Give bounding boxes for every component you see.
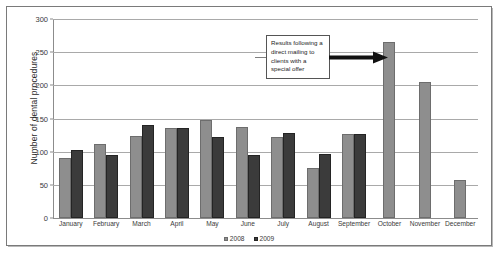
bar-2008 bbox=[59, 158, 71, 218]
y-tick-label: 150 bbox=[35, 114, 48, 123]
bar-group bbox=[159, 19, 194, 218]
x-tick-label: February bbox=[93, 220, 119, 227]
legend-label-2008: 2008 bbox=[230, 235, 245, 242]
bar-group bbox=[336, 19, 371, 218]
x-tick-label: August bbox=[308, 220, 329, 227]
y-tick-label: 300 bbox=[35, 15, 48, 24]
legend-swatch-2008 bbox=[224, 237, 228, 241]
bar-2009 bbox=[212, 137, 224, 218]
bar-2009 bbox=[71, 150, 83, 218]
x-tick-label: September bbox=[338, 220, 370, 227]
gridline bbox=[53, 218, 478, 219]
x-tick-label: October bbox=[378, 220, 401, 227]
bar-2008 bbox=[94, 144, 106, 218]
chart-screenshot: Number of dental procedures 050100150200… bbox=[0, 0, 500, 253]
bar-group bbox=[372, 19, 407, 218]
bar-2008 bbox=[130, 136, 142, 218]
bar-group bbox=[88, 19, 123, 218]
legend-label-2009: 2009 bbox=[260, 235, 275, 242]
chart-legend: 2008 2009 bbox=[7, 235, 491, 242]
bar-group bbox=[195, 19, 230, 218]
y-tick-label: 100 bbox=[35, 147, 48, 156]
x-tick-label: June bbox=[241, 220, 255, 227]
legend-swatch-2009 bbox=[254, 237, 258, 241]
x-axis-labels: JanuaryFebruaryMarchAprilMayJuneJulyAugu… bbox=[53, 220, 478, 234]
annotation-callout: Results following a direct mailing to cl… bbox=[266, 35, 330, 79]
bar-group bbox=[124, 19, 159, 218]
bar-group bbox=[407, 19, 442, 218]
bar-2009 bbox=[283, 133, 295, 218]
bar-2008 bbox=[236, 127, 248, 218]
legend-item-2009: 2009 bbox=[254, 235, 275, 242]
bar-2008 bbox=[419, 82, 431, 218]
y-axis-title: Number of dental procedures bbox=[29, 8, 39, 208]
bar-2008 bbox=[307, 168, 319, 218]
x-tick-label: May bbox=[206, 220, 218, 227]
bar-2008 bbox=[342, 134, 354, 218]
bar-group bbox=[53, 19, 88, 218]
x-tick-label: January bbox=[59, 220, 82, 227]
bar-2008 bbox=[200, 120, 212, 218]
bar-2008 bbox=[383, 42, 395, 218]
chart-frame: Number of dental procedures 050100150200… bbox=[6, 6, 492, 246]
legend-item-2008: 2008 bbox=[224, 235, 245, 242]
y-tick-label: 200 bbox=[35, 81, 48, 90]
bar-2008 bbox=[271, 137, 283, 218]
bar-2009 bbox=[177, 128, 189, 218]
bar-2009 bbox=[248, 155, 260, 218]
bar-2009 bbox=[319, 154, 331, 218]
bar-2009 bbox=[354, 134, 366, 218]
y-tick-label: 0 bbox=[44, 214, 48, 223]
bar-group bbox=[230, 19, 265, 218]
bar-2009 bbox=[142, 125, 154, 218]
bar-2009 bbox=[106, 155, 118, 218]
bar-2008 bbox=[454, 180, 466, 218]
x-tick-label: November bbox=[410, 220, 440, 227]
y-tick-label: 50 bbox=[40, 180, 48, 189]
bar-group bbox=[443, 19, 478, 218]
y-tick-label: 250 bbox=[35, 48, 48, 57]
x-tick-label: July bbox=[277, 220, 289, 227]
x-tick-label: March bbox=[132, 220, 150, 227]
x-tick-label: April bbox=[170, 220, 183, 227]
right-arrow-icon bbox=[329, 50, 389, 63]
x-tick-label: December bbox=[445, 220, 475, 227]
bar-2008 bbox=[165, 128, 177, 218]
